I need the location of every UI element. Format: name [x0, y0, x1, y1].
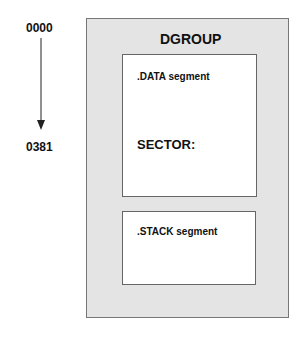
- data-segment-label: .DATA segment: [137, 71, 210, 82]
- address-direction-arrow: [35, 36, 47, 132]
- arrow-head-icon: [37, 120, 45, 130]
- end-address: 0381: [26, 140, 53, 154]
- sector-label: SECTOR:: [137, 137, 195, 152]
- stack-segment-label: .STACK segment: [137, 226, 217, 237]
- dgroup-title: DGROUP: [160, 31, 221, 47]
- stack-segment-box: [122, 211, 256, 285]
- start-address: 0000: [26, 21, 53, 35]
